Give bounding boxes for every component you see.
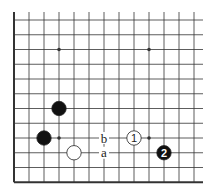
go-board: ba 12 [0, 0, 217, 196]
position-markers: ba [99, 131, 109, 161]
stone-number: 1 [131, 132, 137, 144]
stone-number: 2 [161, 147, 167, 159]
black-stone [37, 131, 51, 145]
hoshi-point [57, 48, 61, 52]
marker-label-b: b [101, 131, 108, 146]
white-stone [67, 146, 81, 160]
hoshi-point [147, 48, 151, 52]
hoshi-point [57, 136, 61, 140]
hoshi-point [147, 136, 151, 140]
black-stone [52, 101, 66, 115]
marker-label-a: a [101, 145, 107, 160]
